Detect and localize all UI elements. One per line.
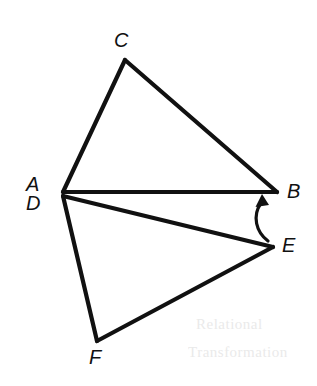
rotation-arrow-arc	[256, 203, 268, 241]
vertex-label-B: B	[287, 181, 300, 201]
vertex-label-A: A	[26, 174, 39, 194]
vertex-label-E: E	[282, 235, 295, 255]
segment-AC	[63, 60, 125, 192]
ghost-mark-1: Relational	[196, 316, 263, 333]
rotation-arrow-head	[256, 194, 270, 207]
segment-CB	[125, 60, 277, 192]
vertex-label-F: F	[89, 347, 101, 367]
geometry-figure: Relational Transformation A D C B E F	[0, 0, 317, 386]
ghost-mark-2: Transformation	[188, 344, 288, 361]
vertex-label-D: D	[26, 193, 40, 213]
segment-FD	[63, 196, 97, 341]
figure-canvas	[0, 0, 317, 386]
vertex-label-C: C	[114, 30, 128, 50]
segment-DE	[63, 196, 273, 247]
